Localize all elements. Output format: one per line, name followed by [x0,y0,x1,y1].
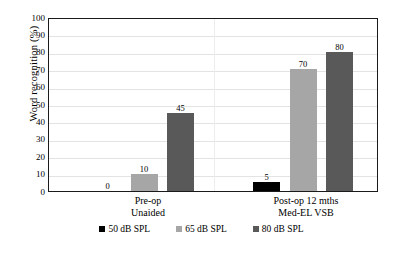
y-tick-100: 100 [19,14,45,23]
cropped-caption-text [4,250,400,257]
legend-label: 80 dB SPL [262,224,304,234]
category-label-2: Post-op 12 mthsMed-EL VSB [226,195,386,218]
y-tick-30: 30 [19,135,45,144]
y-axis-title: Word recognition (%) [28,0,39,154]
category-label-line2: Med-EL VSB [226,207,386,219]
y-tick-90: 90 [19,31,45,40]
bar-s65-group1 [131,174,158,191]
y-tick-0: 0 [19,188,45,197]
legend-swatch-icon-s80 [253,226,259,232]
legend-item-s65[interactable]: 65 dB SPL [176,224,227,234]
bar-s80-group1 [167,113,194,191]
category-label-1: Pre-opUnaided [68,195,228,218]
plot-inner: 0104557080 [49,19,377,191]
bar-value-label-s80-group1: 45 [167,104,194,113]
y-tick-80: 80 [19,48,45,57]
chart-legend: 50 dB SPL65 dB SPL80 dB SPL [0,224,403,234]
category-label-line2: Unaided [68,207,228,219]
category-label-line1: Post-op 12 mths [226,195,386,207]
legend-label: 65 dB SPL [185,224,227,234]
bar-value-label-s80-group2: 80 [326,43,353,52]
y-tick-20: 20 [19,153,45,162]
legend-label: 50 dB SPL [108,224,150,234]
category-separator-line [214,19,215,191]
category-label-line1: Pre-op [68,195,228,207]
legend-swatch-icon-s65 [176,226,182,232]
gridline-90 [49,36,377,37]
y-tick-70: 70 [19,66,45,75]
bar-s65-group2 [290,69,317,191]
y-tick-40: 40 [19,118,45,127]
bar-value-label-s65-group1: 10 [131,165,158,174]
bar-chart-figure: Word recognition (%) 0102030405060708090… [0,0,403,257]
bar-value-label-s50-group1: 0 [94,182,121,191]
y-tick-10: 10 [19,170,45,179]
y-tick-50: 50 [19,101,45,110]
legend-item-s80[interactable]: 80 dB SPL [253,224,304,234]
plot-area: 0104557080 [48,18,378,192]
y-tick-60: 60 [19,83,45,92]
bar-value-label-s50-group2: 5 [253,173,280,182]
bar-s50-group2 [253,182,280,191]
bar-value-label-s65-group2: 70 [290,60,317,69]
legend-item-s50[interactable]: 50 dB SPL [99,224,150,234]
bar-s80-group2 [326,52,353,191]
legend-swatch-icon-s50 [99,226,105,232]
